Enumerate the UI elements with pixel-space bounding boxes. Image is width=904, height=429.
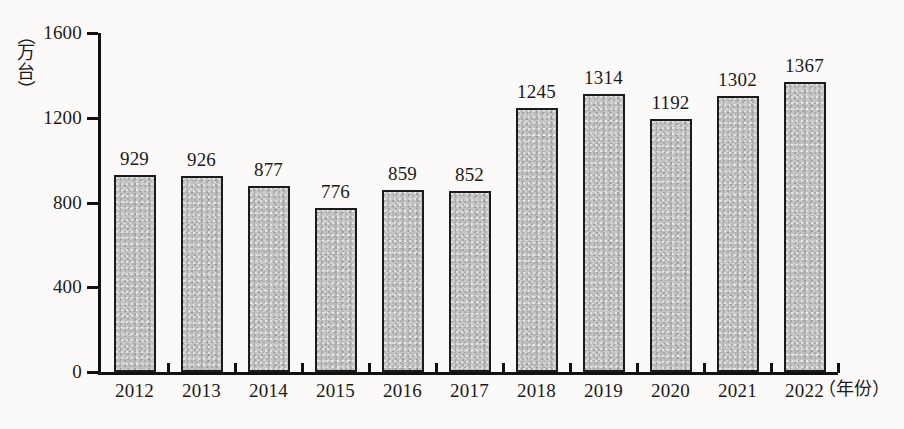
bar-value-label-2020: 1192 [651,93,689,112]
bar-group: 929 [114,33,156,372]
y-tick-400 [87,286,98,289]
x-tick-label-2017: 2017 [450,381,489,400]
bar-2013 [181,176,223,372]
x-axis-line [98,372,838,375]
bar-group: 1314 [583,33,625,372]
x-tick-label-2019: 2019 [584,381,623,400]
bar-value-label-2022: 1367 [785,56,824,75]
bar-group: 776 [315,33,357,372]
bar-group: 859 [382,33,424,372]
x-axis-unit-label: （年份） [818,380,890,398]
bar-group: 1245 [516,33,558,372]
x-tick-label-2020: 2020 [651,381,690,400]
bar-2012 [114,175,156,372]
bar-value-label-2012: 929 [120,149,149,168]
bar-value-label-2018: 1245 [517,82,556,101]
y-tick-800 [87,202,98,205]
x-tick-label-2015: 2015 [316,381,355,400]
bar-value-label-2014: 877 [254,160,283,179]
bar-value-label-2021: 1302 [718,70,757,89]
bar-group: 1367 [784,33,826,372]
y-tick-1600 [87,32,98,35]
y-tick-label-1200: 1200 [0,108,82,127]
x-tick-label-2021: 2021 [718,381,757,400]
bar-group: 877 [248,33,290,372]
bar-chart: （ 万 台 ） 040080012001600 9299268777768598… [0,0,904,429]
bar-value-label-2016: 859 [388,164,417,183]
bar-group: 1302 [717,33,759,372]
x-tick-label-2016: 2016 [383,381,422,400]
x-tick-label-2013: 2013 [182,381,221,400]
bar-group: 852 [449,33,491,372]
bar-value-label-2019: 1314 [584,68,623,87]
bar-2018 [516,108,558,372]
bar-2022 [784,82,826,372]
y-tick-label-800: 800 [0,193,82,212]
bar-2020 [650,119,692,372]
bar-2019 [583,94,625,372]
bar-group: 1192 [650,33,692,372]
bar-2021 [717,96,759,372]
x-tick-label-2012: 2012 [115,381,154,400]
y-axis-unit-close-paren: ） [18,75,34,103]
x-tick-label-2018: 2018 [517,381,556,400]
y-tick-label-0: 0 [0,362,82,381]
plot-area: 92992687777685985212451314119213021367 [101,33,838,372]
y-tick-label-400: 400 [0,277,82,296]
y-tick-label-1600: 1600 [0,23,82,42]
bar-value-label-2013: 926 [187,150,216,169]
bar-value-label-2015: 776 [321,182,350,201]
x-tick-label-2014: 2014 [249,381,288,400]
y-tick-0 [87,371,98,374]
bar-value-label-2017: 852 [455,165,484,184]
y-tick-1200 [87,117,98,120]
bar-2015 [315,208,357,372]
bar-2014 [248,186,290,372]
bar-group: 926 [181,33,223,372]
bar-2016 [382,190,424,372]
bar-2017 [449,191,491,372]
